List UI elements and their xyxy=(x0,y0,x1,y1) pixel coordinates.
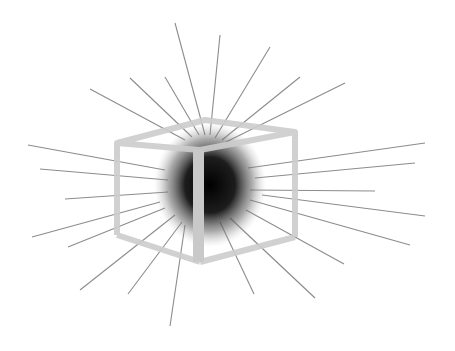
illustration xyxy=(0,0,455,351)
cube-front-edge xyxy=(193,150,204,262)
cube-sphere-rays-graphic xyxy=(0,0,455,351)
